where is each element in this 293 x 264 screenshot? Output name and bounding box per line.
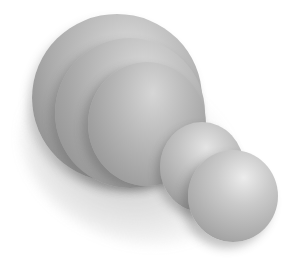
image-scene: Grey 3D rendered pawn-shaped object on w… (0, 0, 293, 264)
head-sphere (188, 150, 278, 242)
image-alt-text: Grey 3D rendered pawn-shaped object on w… (0, 0, 1, 1)
